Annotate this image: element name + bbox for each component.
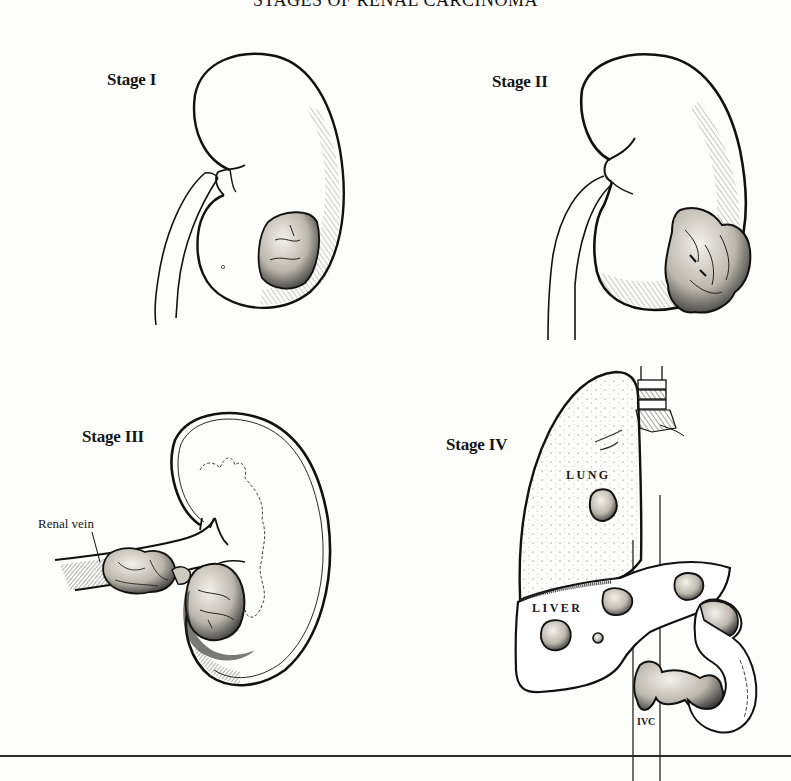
bottom-divider <box>0 755 791 757</box>
stage-2-illustration <box>548 54 750 340</box>
ivc-label: IVC <box>637 716 655 727</box>
illustration-canvas <box>0 0 791 781</box>
lung-label: LUNG <box>566 468 611 483</box>
liver-label: LIVER <box>532 601 583 616</box>
renal-vein-label: Renal vein <box>38 516 94 532</box>
trachea-icon <box>636 366 684 436</box>
stage-4-label: Stage IV <box>446 435 507 455</box>
stage-4-illustration <box>516 366 757 781</box>
stage-1-label: Stage I <box>107 70 156 90</box>
stage-2-label: Stage II <box>492 72 548 92</box>
stage-1-illustration <box>155 54 344 325</box>
stage-3-illustration <box>55 413 330 685</box>
stage-3-label: Stage III <box>82 427 144 447</box>
